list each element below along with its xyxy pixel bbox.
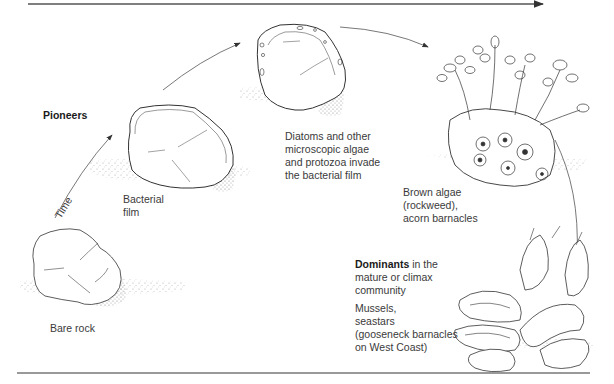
brown-algae-drawing	[425, 36, 590, 186]
climax-species-label: Mussels, seastars (gooseneck barnacles o…	[355, 302, 458, 354]
dominants-rest: in the	[409, 258, 438, 270]
diatoms-label-line: and protozoa invade	[285, 156, 380, 169]
dominants-line: mature or climax	[355, 271, 438, 284]
diatoms-label-line: Diatoms and other	[285, 130, 380, 143]
time-arrow-3	[340, 27, 428, 47]
brown-algae-label-line: acorn barnacles	[403, 212, 478, 225]
bacterial-film-drawing	[90, 105, 250, 192]
bacterial-film-label: Bacterial film	[123, 193, 164, 219]
diatoms-label-line: microscopic algae	[285, 143, 380, 156]
bare-rock-label: Bare rock	[50, 322, 95, 335]
climax-community-drawing	[454, 226, 595, 372]
brown-algae-label-line: Brown algae	[403, 186, 478, 199]
dominants-line: community	[355, 284, 438, 297]
time-arrow-2	[163, 43, 240, 90]
bacterial-film-label-line: film	[123, 206, 164, 219]
bacterial-film-label-line: Bacterial	[123, 193, 164, 206]
bare-rock-label-line: Bare rock	[50, 322, 95, 335]
diatom-rock-drawing	[240, 24, 346, 116]
brown-algae-label-line: (rockweed),	[403, 199, 478, 212]
brown-algae-label: Brown algae (rockweed), acorn barnacles	[403, 186, 478, 225]
time-arrow-4	[555, 140, 577, 255]
dominants-bold: Dominants	[355, 258, 409, 270]
climax-species-line: Mussels,	[355, 302, 458, 315]
diatoms-label-line: the bacterial film	[285, 169, 380, 182]
climax-species-line: on West Coast)	[355, 341, 458, 354]
climax-species-line: (gooseneck barnacles	[355, 328, 458, 341]
pioneers-label: Pioneers	[43, 109, 87, 122]
dominants-label: Dominants in the mature or climax commun…	[355, 258, 438, 297]
climax-species-line: seastars	[355, 315, 458, 328]
bare-rock-drawing	[20, 229, 185, 307]
diatoms-label: Diatoms and other microscopic algae and …	[285, 130, 380, 182]
